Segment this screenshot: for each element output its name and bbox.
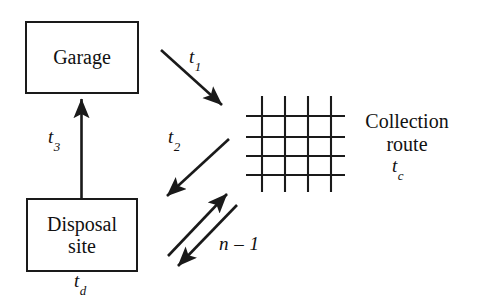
node-garage: Garage <box>25 21 139 94</box>
edge-label-t1-subscript: 1 <box>195 59 202 74</box>
edge-label-t3: t3 <box>48 126 60 152</box>
edge-label-n-minus-1: n – 1 <box>219 233 260 255</box>
node-disposal-site: Disposal site <box>26 198 138 272</box>
edge-label-t3-subscript: 3 <box>54 139 61 154</box>
edge-label-t2-subscript: 2 <box>174 139 181 154</box>
edge-label-t2-base: t <box>168 126 173 147</box>
annotation-label-td-base: t <box>74 270 79 291</box>
collection-route-grid <box>246 96 345 192</box>
node-disposal-site-label: Disposal site <box>47 213 117 258</box>
diagram-canvas: Garage Disposal site Collection route t1… <box>0 0 478 299</box>
edge-label-t2: t2 <box>168 126 180 152</box>
annotation-label-tc-base: t <box>392 155 397 176</box>
annotation-label-td-subscript: d <box>80 283 87 298</box>
edge-label-t1: t1 <box>189 46 201 72</box>
annotation-label-tc-subscript: c <box>398 168 404 183</box>
edge-label-t1-base: t <box>189 46 194 67</box>
annotation-label-tc: tc <box>392 155 403 181</box>
node-collection-route-label: Collection route <box>352 110 462 156</box>
edge-label-t3-base: t <box>48 126 53 147</box>
annotation-label-td: td <box>74 270 86 296</box>
node-garage-label: Garage <box>53 46 111 68</box>
